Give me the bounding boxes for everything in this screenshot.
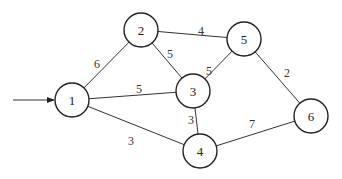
graph-diagram: 653545327 123456 <box>0 0 342 179</box>
edge-weight-1-3: 5 <box>136 82 142 96</box>
node-label: 2 <box>138 23 145 38</box>
node-label: 5 <box>241 32 248 47</box>
edge-weight-1-4: 3 <box>128 134 134 148</box>
edge-weight-2-3: 5 <box>167 47 173 61</box>
node-5: 5 <box>227 22 261 56</box>
node-6: 6 <box>294 99 328 133</box>
node-4: 4 <box>183 134 217 168</box>
edge-weight-4-6: 7 <box>249 117 255 131</box>
node-2: 2 <box>124 13 158 47</box>
edge-weight-3-4: 3 <box>188 113 194 127</box>
node-label: 1 <box>69 93 76 108</box>
edge-weight-5-6: 2 <box>284 66 290 80</box>
node-1: 1 <box>55 83 89 117</box>
node-label: 4 <box>197 144 204 159</box>
edge-weight-3-5: 5 <box>206 64 212 78</box>
edge-weight-2-5: 4 <box>198 24 204 38</box>
node-3: 3 <box>176 74 210 108</box>
node-label: 3 <box>190 84 197 99</box>
node-label: 6 <box>308 109 315 124</box>
edge-1-4 <box>72 100 200 151</box>
edge-weight-1-2: 6 <box>94 57 100 71</box>
edge-1-3 <box>72 91 193 100</box>
